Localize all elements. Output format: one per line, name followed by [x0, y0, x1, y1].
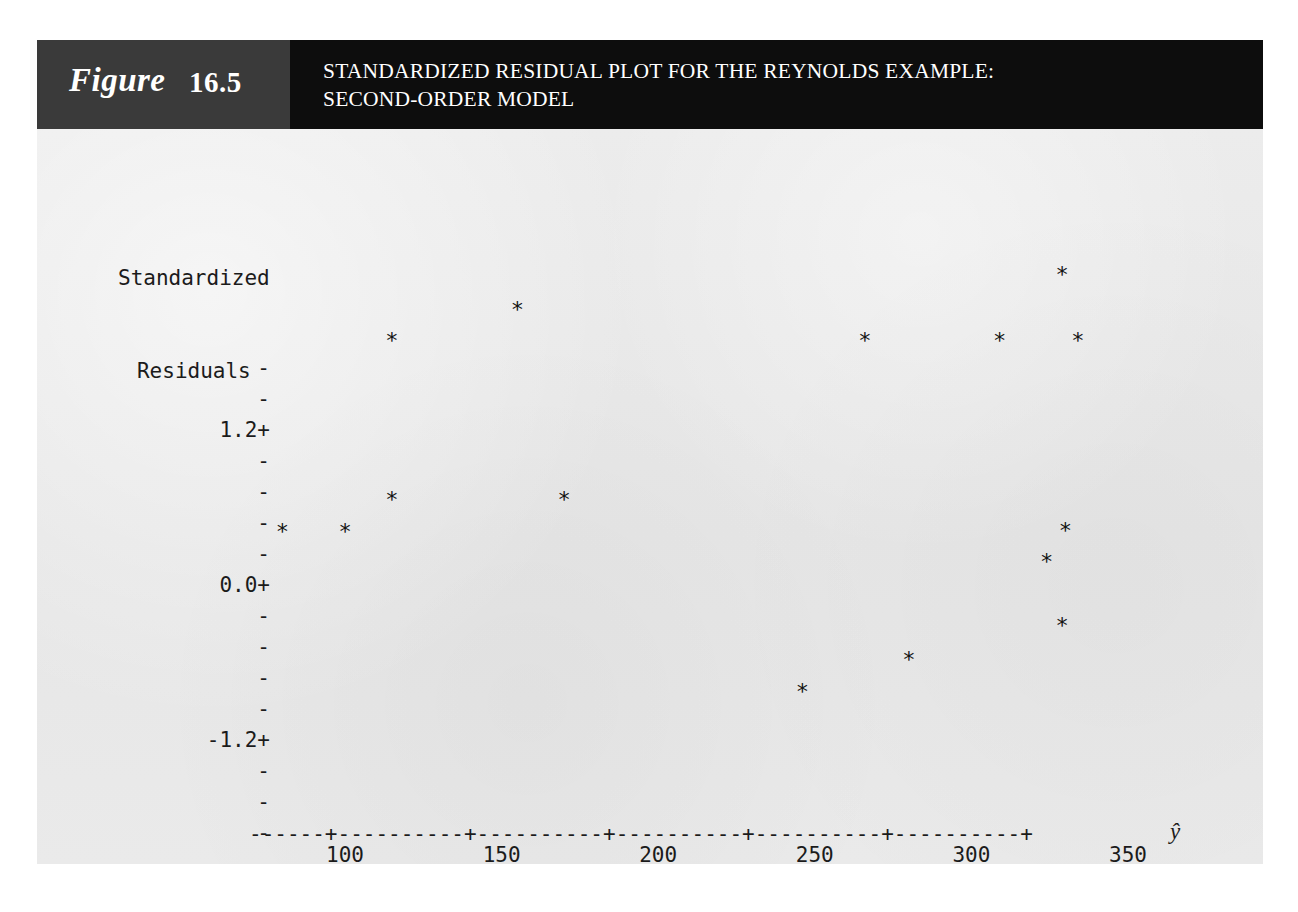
x-axis-tick-label: 300	[952, 845, 990, 864]
figure-container: Figure 16.5 STANDARDIZED RESIDUAL PLOT F…	[37, 40, 1263, 864]
x-axis-rule: ------+----------+----------+----------+…	[249, 823, 1033, 845]
data-point-marker: *	[1056, 615, 1069, 637]
data-point-marker: *	[858, 330, 871, 352]
data-point-marker: *	[385, 330, 398, 352]
figure-word-label: Figure	[69, 62, 166, 99]
data-point-marker: *	[993, 330, 1006, 352]
data-point-marker: *	[385, 489, 398, 511]
x-axis-tick-label: 350	[1109, 845, 1147, 864]
figure-title-line-1: STANDARDIZED RESIDUAL PLOT FOR THE REYNO…	[323, 59, 994, 84]
figure-title-band: STANDARDIZED RESIDUAL PLOT FOR THE REYNO…	[290, 40, 1263, 129]
figure-number-band: Figure 16.5	[37, 40, 290, 129]
figure-number-label: 16.5	[189, 66, 242, 99]
x-axis: ------+----------+----------+----------+…	[37, 823, 1263, 845]
data-point-marker: *	[1059, 520, 1072, 542]
data-point-marker: *	[558, 489, 571, 511]
data-point-marker: *	[1071, 330, 1084, 352]
data-point-marker: *	[1040, 551, 1053, 573]
figure-title-line-2: SECOND-ORDER MODEL	[323, 87, 574, 112]
data-point-marker: *	[902, 649, 915, 671]
data-point-layer: ***************	[37, 129, 1263, 864]
data-point-marker: *	[796, 681, 809, 703]
x-axis-tick-label: 150	[483, 845, 521, 864]
data-point-marker: *	[1056, 264, 1069, 286]
data-point-marker: *	[338, 521, 351, 543]
x-axis-label: ŷ	[1170, 821, 1180, 843]
data-point-marker: *	[511, 299, 524, 321]
x-axis-tick-label: 100	[326, 845, 364, 864]
data-point-marker: *	[276, 521, 289, 543]
x-axis-tick-label: 250	[796, 845, 834, 864]
x-axis-tick-label: 200	[639, 845, 677, 864]
figure-header: Figure 16.5 STANDARDIZED RESIDUAL PLOT F…	[37, 40, 1263, 129]
plot-panel: Standardized Residuals --1.2+----0.0+---…	[37, 129, 1263, 864]
